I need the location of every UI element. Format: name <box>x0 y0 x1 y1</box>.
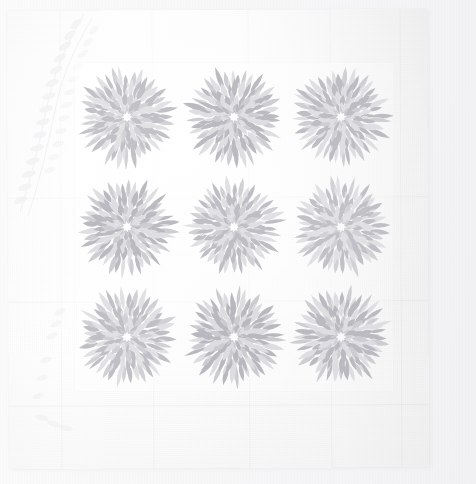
medallion-block <box>287 62 394 172</box>
fabric-seam <box>59 11 63 469</box>
starburst-medallion-icon <box>181 174 287 280</box>
fabric-seam <box>399 9 403 467</box>
medallion-block <box>181 62 288 172</box>
medallion-block <box>287 172 394 282</box>
starburst-medallion-icon <box>286 63 395 172</box>
starburst-medallion-icon <box>75 65 179 169</box>
starburst-medallion-icon <box>72 282 182 392</box>
starburst-medallion-icon <box>284 170 398 284</box>
starburst-medallion-icon <box>288 284 393 389</box>
medallion-block <box>74 282 181 392</box>
medallion-block <box>74 172 181 282</box>
fabric-fold <box>9 403 429 408</box>
medallion-block <box>181 172 288 282</box>
medallion-block <box>181 282 288 392</box>
starburst-medallion-icon <box>71 170 184 283</box>
starburst-medallion-icon <box>177 60 292 175</box>
medallion-grid <box>74 62 394 392</box>
quilt-photograph <box>0 0 476 484</box>
medallion-block <box>74 62 181 172</box>
starburst-medallion-icon <box>178 281 290 393</box>
medallion-block <box>287 282 394 392</box>
